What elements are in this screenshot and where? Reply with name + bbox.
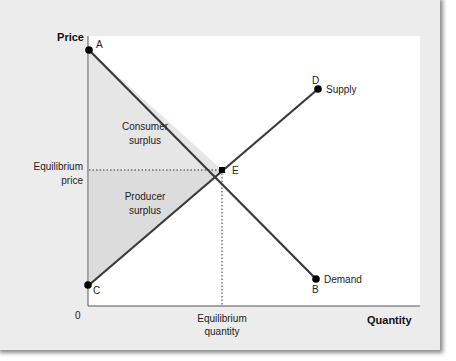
producer-surplus-label-line2: surplus <box>100 205 190 217</box>
point-e-label: E <box>232 165 239 177</box>
x-axis-label: Quantity <box>367 314 412 326</box>
equilibrium-price-label-line2: price <box>10 175 83 187</box>
equilibrium-quantity-label-line1: Equilibrium <box>177 313 267 325</box>
demand-label: Demand <box>324 274 362 286</box>
point-c-label: C <box>93 285 100 297</box>
consumer-surplus-label-line1: Consumer <box>100 121 190 133</box>
point-b-marker <box>312 275 320 283</box>
consumer-surplus-label-line2: surplus <box>100 135 190 147</box>
point-a-marker <box>85 46 93 54</box>
point-c-marker <box>84 281 92 289</box>
equilibrium-price-label-line1: Equilibrium <box>10 161 83 173</box>
producer-surplus-label-line1: Producer <box>100 191 190 203</box>
supply-label: Supply <box>326 84 357 96</box>
equilibrium-quantity-label-line2: quantity <box>177 326 267 338</box>
origin-label: 0 <box>75 310 81 322</box>
point-a-label: A <box>96 39 103 51</box>
y-axis-label: Price <box>40 31 84 43</box>
point-e-marker <box>219 167 225 173</box>
point-d-label: D <box>312 75 319 87</box>
point-b-label: B <box>312 284 319 296</box>
